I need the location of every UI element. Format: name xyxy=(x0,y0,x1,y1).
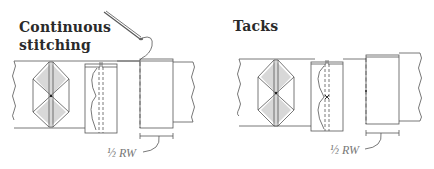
measure-half-rw xyxy=(140,133,173,152)
pleat-flat xyxy=(140,59,173,128)
measure-label-tacks: ½ RW xyxy=(330,143,359,158)
pleat-box xyxy=(311,60,343,131)
panel-tacks xyxy=(238,53,422,149)
diagram xyxy=(0,0,434,169)
pleat-flat xyxy=(365,55,399,124)
measure-half-rw xyxy=(365,130,399,149)
measure-label-continuous: ½ RW xyxy=(107,146,136,161)
needle-icon xyxy=(104,11,152,60)
pleat-hexagon xyxy=(258,60,294,126)
pleat-box xyxy=(85,62,117,133)
pleat-hexagon xyxy=(33,62,69,127)
panel-continuous-stitching xyxy=(13,11,195,152)
